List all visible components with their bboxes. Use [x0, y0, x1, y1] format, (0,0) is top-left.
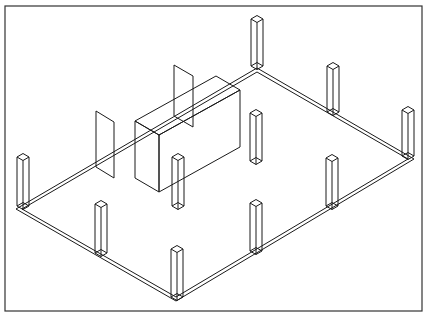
col-interior-upper: [250, 110, 262, 165]
box-top-face: [135, 76, 240, 135]
col-interior-lower: [250, 200, 262, 255]
floor-slab: [16, 68, 414, 301]
col-top-corner: [251, 16, 263, 70]
column-top: [171, 246, 183, 253]
slab-inner-edge: [22, 72, 408, 297]
panel-left: [96, 111, 114, 178]
drawing-canvas: Isometric wireframe line drawing of a re…: [0, 0, 427, 318]
column-top: [326, 155, 338, 162]
column-top: [327, 63, 339, 70]
col-interior-left: [172, 154, 184, 210]
col-left-corner: [17, 154, 29, 210]
columns: [17, 16, 414, 301]
column-top: [250, 110, 262, 117]
column-top: [172, 154, 184, 161]
col-right-corner: [402, 107, 414, 160]
col-lower-edge-mid: [95, 201, 107, 257]
column-top: [402, 107, 414, 114]
drawing-frame: [5, 6, 422, 311]
col-upper-edge-mid: [327, 63, 339, 116]
column-top: [95, 201, 107, 208]
col-bottom-corner: [171, 246, 183, 301]
slab-outline: [16, 68, 414, 301]
column-top: [251, 16, 263, 23]
isometric-drawing: [0, 0, 427, 318]
column-top: [17, 154, 29, 161]
column-top: [250, 200, 262, 207]
